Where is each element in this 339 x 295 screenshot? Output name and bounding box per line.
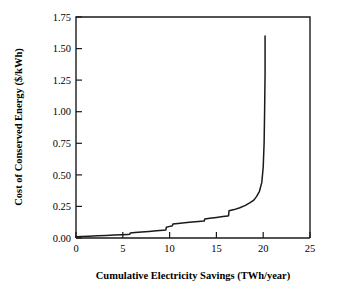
chart-figure: 0.00 0.25 0.50 0.75 1.00 1.25 1.50 1.75 … bbox=[0, 0, 339, 295]
y-tick-label-2: 0.50 bbox=[53, 170, 71, 181]
y-tick-labels: 0.00 0.25 0.50 0.75 1.00 1.25 1.50 1.75 bbox=[53, 12, 71, 244]
y-tick-label-0: 0.00 bbox=[53, 233, 71, 244]
y-tick-label-5: 1.25 bbox=[53, 75, 71, 86]
x-tick-label-1: 5 bbox=[120, 243, 125, 254]
y-tick-label-1: 0.25 bbox=[53, 201, 71, 212]
x-axis-title: Cumulative Electricity Savings (TWh/year… bbox=[96, 270, 291, 282]
y-tick-label-7: 1.75 bbox=[53, 12, 71, 23]
frame-left-top-right bbox=[76, 17, 310, 238]
x-tick-label-5: 25 bbox=[305, 243, 316, 254]
axis-frame bbox=[76, 17, 310, 238]
y-tick-label-3: 0.75 bbox=[53, 138, 71, 149]
y-tick-label-6: 1.50 bbox=[53, 43, 71, 54]
y-axis-title: Cost of Conserved Energy ($/kWh) bbox=[13, 48, 25, 206]
y-tick-label-4: 1.00 bbox=[53, 106, 71, 117]
x-tick-label-4: 20 bbox=[258, 243, 269, 254]
x-tick-label-2: 10 bbox=[164, 243, 175, 254]
chart-plot-area: 0.00 0.25 0.50 0.75 1.00 1.25 1.50 1.75 … bbox=[0, 0, 339, 295]
y-tick-marks bbox=[76, 17, 82, 238]
x-tick-label-3: 15 bbox=[211, 243, 222, 254]
x-tick-label-0: 0 bbox=[73, 243, 78, 254]
supply-curve-line bbox=[76, 36, 265, 237]
x-tick-labels: 0 5 10 15 20 25 bbox=[73, 243, 315, 254]
